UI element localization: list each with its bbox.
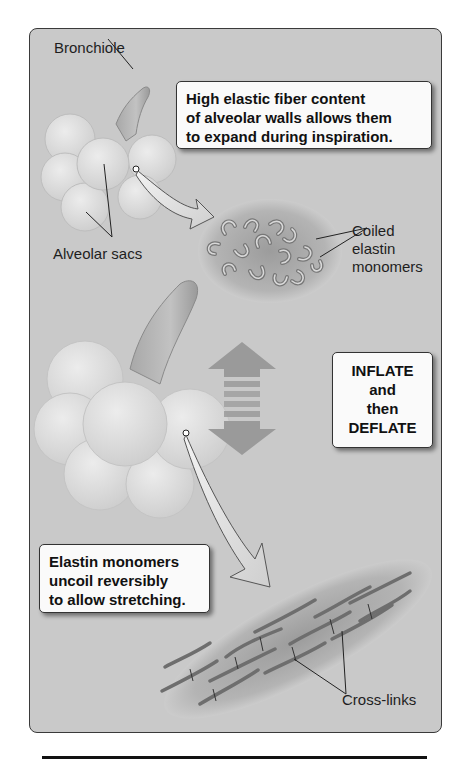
figure-panel: Bronchiole Alveolar sacs Coiled elastin … — [29, 28, 442, 733]
label-alveolar-sacs: Alveolar sacs — [53, 245, 142, 262]
label-cross-links: Cross-links — [342, 691, 416, 708]
label-bronchiole: Bronchiole — [54, 39, 125, 56]
bottom-rule — [42, 756, 427, 759]
label-coiled-elastin-monomers: Coiled elastin monomers — [352, 222, 423, 276]
callout-elastic-fiber: High elastic fiber content of alveolar w… — [176, 81, 432, 149]
alveoli-small — [41, 39, 176, 237]
callout-elastin-uncoil: Elastin monomers uncoil reversibly to al… — [39, 544, 210, 613]
callout-inflate-deflate: INFLATE and then DEFLATE — [332, 352, 433, 448]
coiled-elastin-disc — [198, 199, 367, 303]
